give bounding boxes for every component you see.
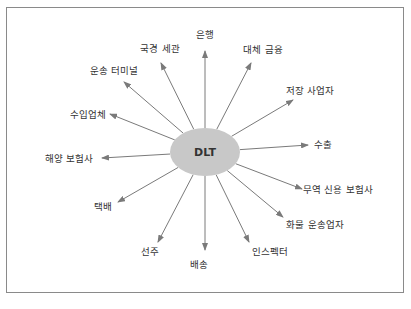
arrow	[102, 154, 170, 158]
arrow	[232, 100, 293, 136]
node-label: 배송	[190, 259, 208, 271]
arrow	[118, 167, 178, 202]
arrow	[217, 63, 251, 129]
arrow	[158, 175, 193, 242]
node-label: 운송 터미널	[90, 65, 138, 77]
node-label: 화물 운송업자	[286, 219, 343, 231]
node-label: 선주	[141, 246, 159, 258]
arrow	[161, 63, 194, 129]
arrow	[240, 145, 308, 150]
node-label: 택배	[94, 201, 112, 213]
hub-label: DLT	[194, 146, 216, 159]
node-label: 국경 세관	[140, 43, 179, 55]
node-label: 저장 사업자	[286, 85, 334, 97]
node-label: 인스펙터	[252, 246, 288, 258]
node-label: 수입업체	[70, 109, 106, 121]
node-label: 무역 신용 보험사	[303, 184, 372, 196]
arrow	[227, 171, 283, 217]
node-label: 수출	[314, 139, 332, 151]
node-label: 은행	[196, 29, 214, 41]
node-label: 대체 금융	[243, 44, 282, 56]
node-label: 해양 보험사	[45, 153, 93, 165]
